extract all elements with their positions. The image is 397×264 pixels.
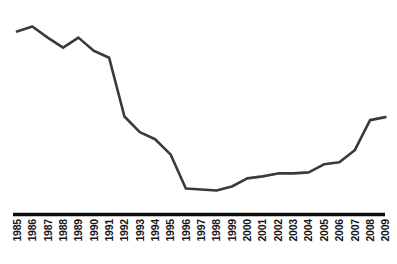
x-axis-tick-label: 2008 [364,219,377,263]
x-axis-tick-label: 2007 [349,219,362,263]
x-axis-tick-label: 2002 [272,219,285,263]
x-axis-tick-label: 1991 [103,219,116,263]
x-axis-tick-label: 2004 [302,219,315,263]
x-axis-tick-label: 1990 [88,219,101,263]
x-axis-tick-label: 1999 [226,219,239,263]
x-axis-tick-label: 1996 [180,219,193,263]
x-axis-tick-label: 1989 [72,219,85,263]
x-axis-tick-label: 2003 [287,219,300,263]
x-axis-tick-label: 2001 [256,219,269,263]
x-axis-tick-label: 2005 [318,219,331,263]
line-chart: 1985198619871988198919901991199219931994… [0,0,397,264]
x-axis-tick-label: 2006 [333,219,346,263]
x-axis-tick-labels: 1985198619871988198919901991199219931994… [0,219,397,264]
x-axis-tick-label: 1985 [11,219,24,263]
x-axis-tick-label: 1987 [42,219,55,263]
x-axis-tick-label: 2000 [241,219,254,263]
x-axis-tick-label: 1992 [118,219,131,263]
x-axis-tick-label: 1998 [210,219,223,263]
x-axis-tick-label: 1994 [149,219,162,263]
data-series-line [17,27,385,191]
x-axis-tick-label: 1993 [134,219,147,263]
x-axis-tick-label: 1995 [164,219,177,263]
x-axis-tick-label: 1997 [195,219,208,263]
x-axis-tick-label: 1988 [57,219,70,263]
x-axis-tick-label: 2009 [379,219,392,263]
x-axis-tick-label: 1986 [26,219,39,263]
